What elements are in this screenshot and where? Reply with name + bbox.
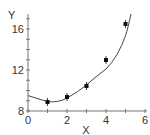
x-tick-label-0: 0 [25, 114, 31, 126]
data-point-2 [66, 93, 69, 101]
data-point-1 [46, 98, 49, 106]
x-tick-label-2: 2 [64, 114, 70, 126]
data-point-3 [85, 82, 88, 90]
x-axis-title: X [82, 124, 90, 135]
y-tick-label-8: 8 [18, 105, 24, 117]
chart-root: 8 12 16 0 2 4 6 Y X [0, 0, 150, 135]
data-point-5 [124, 20, 127, 28]
data-point-4 [105, 56, 108, 64]
x-tick-label-6: 6 [142, 114, 148, 126]
data-points [46, 20, 127, 106]
x-tick-label-4: 4 [103, 114, 109, 126]
fit-curve [28, 14, 131, 102]
y-tick-label-12: 12 [12, 64, 24, 76]
y-axis-title: Y [8, 9, 16, 21]
y-tick-label-16: 16 [12, 23, 24, 35]
